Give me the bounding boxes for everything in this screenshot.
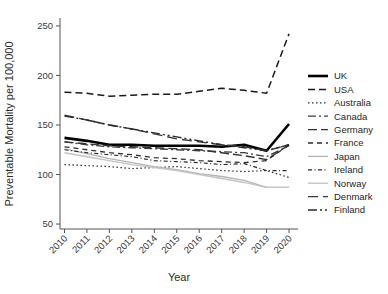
y-axis-ticks: 50100150200250 xyxy=(37,20,60,229)
chart-legend: UKUSAAustraliaCanadaGermanyFranceJapanIr… xyxy=(308,70,373,215)
x-tick-label: 2019 xyxy=(249,233,272,256)
x-axis-ticks: 2010201120122013201420152016201720182019… xyxy=(47,229,294,255)
legend-label-germany: Germany xyxy=(334,124,373,135)
y-tick-label: 100 xyxy=(37,169,53,180)
legend-label-ireland: Ireland xyxy=(334,164,363,175)
x-tick-label: 2020 xyxy=(271,233,294,256)
y-tick-label: 150 xyxy=(37,119,53,130)
legend-label-japan: Japan xyxy=(334,151,360,162)
chart-figure: 50100150200250 2010201120122013201420152… xyxy=(0,0,388,294)
plot-background xyxy=(60,18,298,229)
legend-label-norway: Norway xyxy=(334,178,366,189)
legend-label-denmark: Denmark xyxy=(334,191,373,202)
x-tick-label: 2018 xyxy=(226,233,249,256)
legend-label-canada: Canada xyxy=(334,111,368,122)
y-tick-label: 250 xyxy=(37,20,53,31)
x-tick-label: 2010 xyxy=(47,233,70,256)
y-tick-label: 200 xyxy=(37,70,53,81)
x-axis-title: Year xyxy=(168,271,191,283)
legend-label-france: France xyxy=(334,137,364,148)
x-tick-label: 2016 xyxy=(181,233,204,256)
x-tick-label: 2014 xyxy=(136,233,159,256)
y-tick-label: 50 xyxy=(42,218,53,229)
legend-label-uk: UK xyxy=(334,70,348,81)
line-chart: 50100150200250 2010201120122013201420152… xyxy=(0,0,388,294)
x-tick-label: 2017 xyxy=(204,233,227,256)
x-tick-label: 2015 xyxy=(159,233,182,256)
x-tick-label: 2011 xyxy=(70,233,92,255)
legend-label-australia: Australia xyxy=(334,97,372,108)
x-tick-label: 2013 xyxy=(114,233,137,256)
y-axis-title: Preventable Mortality per 100,000 xyxy=(3,41,15,206)
legend-label-usa: USA xyxy=(334,84,354,95)
legend-label-finland: Finland xyxy=(334,204,365,215)
x-tick-label: 2012 xyxy=(92,233,115,256)
